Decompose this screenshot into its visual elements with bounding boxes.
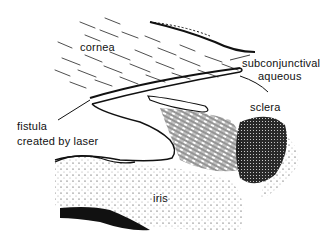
cornea-label: cornea xyxy=(80,41,115,54)
fistula-leader-line xyxy=(58,100,90,120)
subconjunctival-label-line2: aqueous xyxy=(258,70,302,83)
iris-label: iris xyxy=(153,192,168,205)
fistula-label-line2: created by laser xyxy=(17,135,98,148)
fistula-channel xyxy=(90,68,268,104)
fistula-label-line1: fistula xyxy=(17,120,47,133)
sclera-label: sclera xyxy=(250,101,281,114)
subconjunctival-label-line1: subconjunctival xyxy=(242,57,320,70)
diagram-canvas xyxy=(0,0,336,241)
